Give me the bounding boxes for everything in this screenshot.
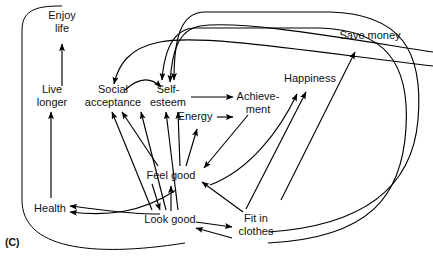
node-happiness: Happiness — [284, 72, 336, 84]
node-energy: Energy — [178, 110, 213, 122]
node-social-acceptance: Socialacceptance — [85, 82, 141, 107]
edge-fit-in-clothes-to-look-good — [196, 228, 232, 238]
node-fit-in-clothes-line-0: Fit in — [244, 211, 268, 223]
node-achievement-line-1: ment — [246, 102, 270, 114]
node-health: Health — [34, 202, 66, 214]
node-enjoy-life: Enjoylife — [48, 8, 76, 33]
node-enjoy-life-line-1: life — [55, 21, 69, 33]
edge-social-acceptance-to-self-esteem — [125, 80, 161, 90]
edge-look-good-to-self-esteem-a — [141, 112, 166, 210]
node-self-esteem-line-0: Self- — [157, 82, 180, 94]
node-energy-line-0: Energy — [178, 110, 213, 122]
node-live-longer: Livelonger — [37, 82, 68, 107]
node-self-esteem-line-1: esteem — [150, 95, 186, 107]
panel-label: (C) — [5, 236, 20, 248]
edge-save-money-loop-to-self-esteem — [174, 12, 419, 232]
node-health-line-0: Health — [34, 202, 66, 214]
edge-layer — [22, 6, 433, 249]
node-achievement-line-0: Achieve- — [237, 89, 280, 101]
causal-loop-diagram: EnjoylifeLivelongerSocialacceptanceSelf-… — [0, 0, 433, 258]
node-live-longer-line-1: longer — [37, 95, 68, 107]
edge-feel-good-to-look-good — [152, 184, 160, 210]
edge-look-good-to-fit-in-clothes — [196, 222, 232, 227]
node-happiness-line-0: Happiness — [284, 72, 336, 84]
node-achievement: Achieve-ment — [237, 89, 280, 114]
node-feel-good: Feel good — [147, 169, 196, 181]
node-social-acceptance-line-0: Social — [98, 82, 128, 94]
node-self-esteem: Self-esteem — [150, 82, 186, 107]
node-look-good: Look good — [144, 213, 195, 225]
node-social-acceptance-line-1: acceptance — [85, 95, 141, 107]
node-save-money: Save money — [339, 29, 401, 41]
node-enjoy-life-line-0: Enjoy — [48, 8, 76, 20]
edge-achievement-to-feel-good — [204, 115, 248, 168]
node-fit-in-clothes: Fit inclothes — [239, 211, 274, 236]
node-save-money-line-0: Save money — [339, 29, 401, 41]
node-live-longer-line-0: Live — [42, 82, 62, 94]
node-feel-good-line-0: Feel good — [147, 169, 196, 181]
edge-feel-good-to-health — [70, 190, 176, 214]
diagram-canvas: EnjoylifeLivelongerSocialacceptanceSelf-… — [0, 0, 433, 258]
node-fit-in-clothes-line-1: clothes — [239, 224, 274, 236]
edge-fit-in-clothes-to-feel-good — [202, 182, 243, 212]
node-layer: EnjoylifeLivelongerSocialacceptanceSelf-… — [34, 8, 401, 236]
node-look-good-line-0: Look good — [144, 213, 195, 225]
edge-feel-good-to-energy — [186, 129, 197, 166]
